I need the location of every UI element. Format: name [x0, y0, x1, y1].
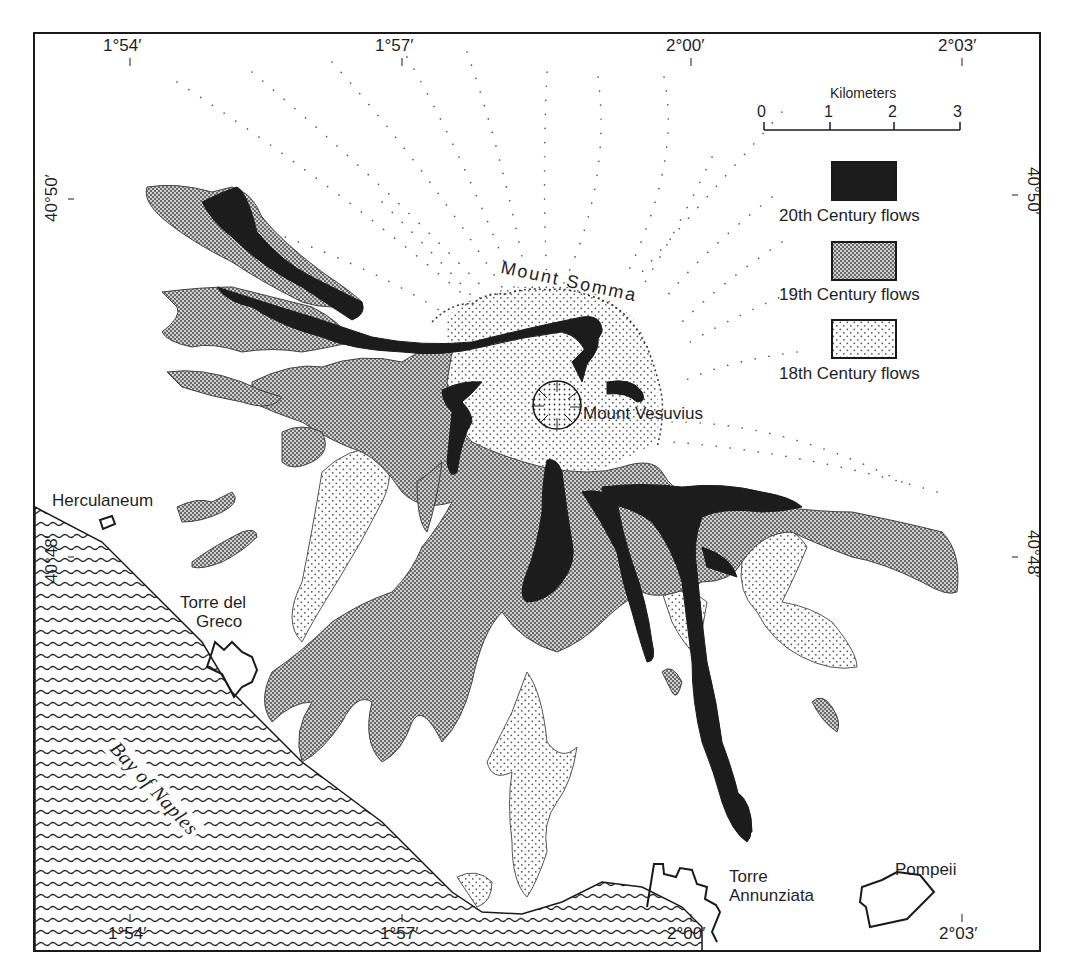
coord-bottom-2: 1°57′ — [380, 924, 418, 944]
legend-swatch-19th — [832, 242, 896, 280]
coord-right-2: 40°48′ — [1023, 530, 1043, 578]
label-mount-vesuvius: Mount Vesuvius — [583, 404, 703, 423]
flow-19th-small-east — [812, 698, 839, 732]
label-torre-annunziata-line1: Torre — [729, 867, 768, 886]
coord-top-3: 2°00′ — [666, 36, 704, 56]
pompeii-outline — [860, 872, 934, 927]
legend-label-20th: 20th Century flows — [779, 206, 920, 226]
flow-19th-se-tail — [662, 669, 682, 696]
legend-swatch-18th — [832, 320, 896, 358]
label-torre-del-greco-line1: Torre del — [180, 593, 246, 612]
herculaneum-outline — [100, 516, 115, 529]
coord-bottom-1: 1°54′ — [108, 924, 146, 944]
label-pompeii: Pompeii — [895, 860, 956, 879]
scale-tick-1: 1 — [824, 103, 833, 121]
scale-tick-2: 2 — [888, 103, 897, 121]
coord-bottom-3: 2°00′ — [667, 924, 705, 944]
scale-bar — [764, 122, 960, 130]
coord-top-2: 1°57′ — [375, 36, 413, 56]
label-torre-del-greco-line2: Greco — [196, 612, 242, 631]
coord-right-1: 40°50′ — [1023, 167, 1043, 215]
scale-title: Kilometers — [830, 85, 896, 101]
flow-19th-herc-2 — [192, 530, 257, 567]
coord-left-1: 40°50′ — [42, 174, 62, 222]
legend-swatch-20th — [832, 162, 896, 200]
flow-19th-w-mid — [282, 427, 325, 467]
legend-label-18th: 18th Century flows — [779, 364, 920, 384]
scale-tick-3: 3 — [953, 103, 962, 121]
label-herculaneum: Herculaneum — [52, 491, 153, 510]
scale-tick-0: 0 — [757, 103, 766, 121]
coord-bottom-4: 2°03′ — [939, 924, 977, 944]
coord-left-2: 40°48′ — [42, 535, 62, 583]
legend-label-19th: 19th Century flows — [779, 285, 920, 305]
flow-18th-south — [487, 672, 577, 897]
coord-top-1: 1°54′ — [103, 36, 141, 56]
label-torre-annunziata-line2: Annunziata — [729, 886, 814, 905]
coord-top-4: 2°03′ — [938, 36, 976, 56]
flow-19th-herc-1 — [177, 492, 235, 522]
